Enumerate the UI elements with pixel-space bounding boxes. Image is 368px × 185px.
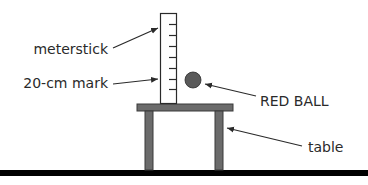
diagram: meterstick 20-cm mark RED BALL table [0,0,368,185]
table-label: table [308,139,343,155]
table [137,104,233,170]
mark-arrow [113,79,158,84]
ball-label: RED BALL [260,93,329,109]
meterstick [161,14,178,104]
mark-label: 20-cm mark [23,75,109,91]
red-ball [185,72,201,88]
ball-arrow [205,84,256,96]
table-leg-right [215,111,223,170]
table-arrow [227,128,302,146]
floor [0,170,368,176]
meterstick-arrow [113,28,158,48]
meterstick-label: meterstick [33,41,108,57]
table-leg-left [145,111,153,170]
table-top [137,104,233,111]
